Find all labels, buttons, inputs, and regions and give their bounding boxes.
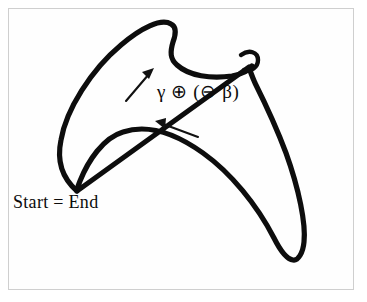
direction-arrow-lower-head bbox=[155, 118, 166, 129]
direction-arrow-upper-shaft bbox=[126, 74, 149, 101]
operation-label: γ ⊕ (⊖ β) bbox=[157, 80, 239, 103]
figure-root: γ ⊕ (⊖ β) Start = End bbox=[0, 0, 367, 302]
start-end-label: Start = End bbox=[13, 192, 98, 213]
closed-curve-group bbox=[60, 22, 305, 260]
curve-drawing bbox=[0, 0, 367, 302]
direction-arrow-upper-head bbox=[142, 68, 154, 79]
direction-arrow-upper bbox=[126, 68, 154, 101]
